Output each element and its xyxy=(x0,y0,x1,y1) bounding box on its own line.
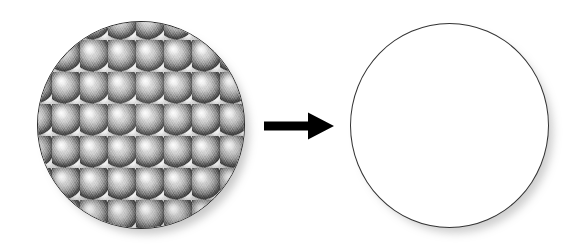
process-diagram: A circular sample covered with a hexagon… xyxy=(0,0,585,249)
coated-substrate-disc xyxy=(37,21,245,229)
bare-substrate-disc xyxy=(350,23,549,228)
transformation-arrow-icon xyxy=(264,111,336,141)
arrow-right-icon xyxy=(264,113,334,140)
sphere-monolayer-texture xyxy=(37,21,245,229)
